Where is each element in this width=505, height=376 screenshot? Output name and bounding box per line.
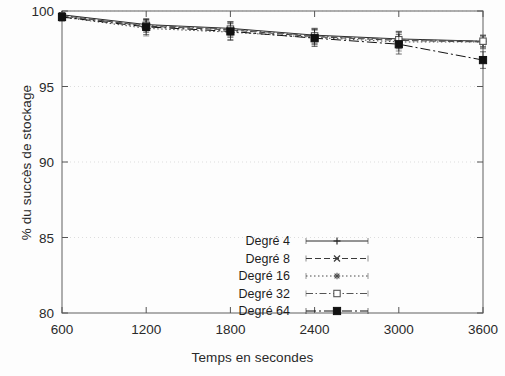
x-axis-label: Temps en secondes xyxy=(0,350,505,365)
y-axis-label: % du succès de stockage xyxy=(19,53,34,273)
axes-frame xyxy=(62,11,483,313)
legend-label-4: Degré 32 xyxy=(239,287,290,301)
svg-text:95: 95 xyxy=(39,80,54,95)
axis-ticks xyxy=(62,11,483,313)
svg-text:1800: 1800 xyxy=(215,322,245,337)
chart-legend: Degré 4Degré 8Degré 16Degré 32Degré 64 xyxy=(239,234,368,318)
chart-container: 80859095100 60012001800240030003600 Degr… xyxy=(0,0,505,376)
y-tick-labels: 80859095100 xyxy=(31,4,54,321)
svg-text:1200: 1200 xyxy=(131,322,161,337)
legend-label-3: Degré 16 xyxy=(239,269,290,283)
svg-text:80: 80 xyxy=(39,306,54,321)
gridlines xyxy=(62,11,483,238)
svg-text:85: 85 xyxy=(39,231,54,246)
svg-text:100: 100 xyxy=(31,4,54,19)
data-series-layer xyxy=(58,11,486,68)
chart-plot-area: 80859095100 60012001800240030003600 Degr… xyxy=(0,0,505,376)
svg-text:3600: 3600 xyxy=(468,322,498,337)
svg-text:90: 90 xyxy=(39,155,54,170)
legend-label-2: Degré 8 xyxy=(246,252,291,266)
x-tick-labels: 60012001800240030003600 xyxy=(51,322,498,337)
svg-text:3000: 3000 xyxy=(384,322,414,337)
svg-text:2400: 2400 xyxy=(300,322,330,337)
svg-text:600: 600 xyxy=(51,322,74,337)
legend-label-5: Degré 64 xyxy=(239,304,290,318)
legend-label-1: Degré 4 xyxy=(246,234,291,248)
